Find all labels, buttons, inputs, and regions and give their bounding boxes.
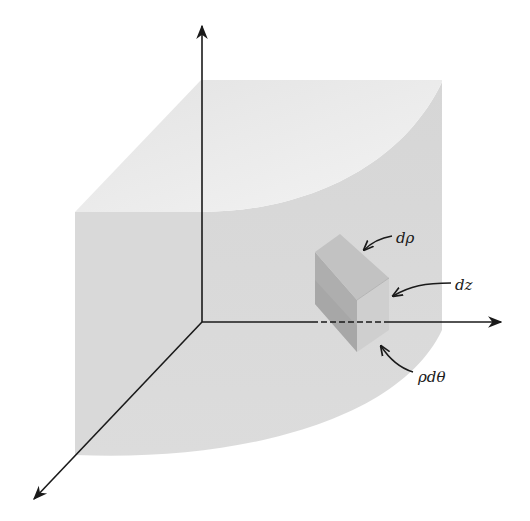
cylindrical-volume-diagram: dρ dz ρdθ xyxy=(0,0,530,521)
label-dz: dz xyxy=(455,276,473,294)
label-rho-dtheta: ρdθ xyxy=(417,368,445,386)
label-d-rho: dρ xyxy=(396,229,415,247)
